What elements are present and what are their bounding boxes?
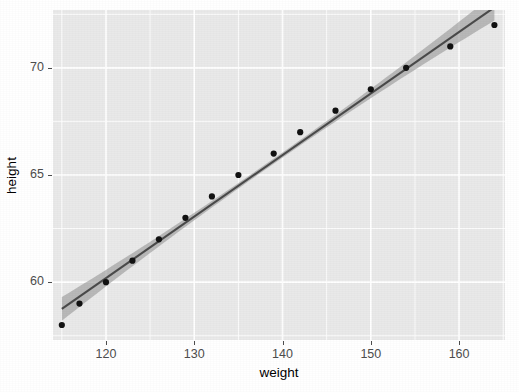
scatter-plot-figure: height 606570 120130140150160 weight: [0, 0, 519, 392]
data-point: [59, 322, 65, 328]
x-axis-tick-mark: [283, 341, 284, 345]
data-point: [368, 86, 374, 92]
x-axis-title: weight: [53, 365, 505, 380]
x-axis-tick-label: 160: [436, 348, 482, 361]
x-axis-tick-mark: [106, 341, 107, 345]
data-point: [209, 193, 215, 199]
y-axis-tick-mark: [48, 68, 52, 69]
data-point: [447, 43, 453, 49]
data-point: [403, 65, 409, 71]
plot-panel: [53, 10, 505, 340]
y-axis-tick-label: 70: [4, 61, 44, 74]
y-axis-tick-label: 65: [4, 168, 44, 181]
major-gridlines: [53, 10, 505, 340]
data-point: [76, 300, 82, 306]
x-axis-tick-label: 120: [83, 348, 129, 361]
data-point: [182, 215, 188, 221]
x-axis-tick-label: 130: [171, 348, 217, 361]
y-axis-tick-mark: [48, 175, 52, 176]
data-point: [235, 172, 241, 178]
y-axis-title: height: [0, 0, 22, 350]
x-axis-tick-label: 150: [348, 348, 394, 361]
data-point: [129, 258, 135, 264]
x-axis-tick-mark: [459, 341, 460, 345]
data-point: [156, 236, 162, 242]
data-point: [271, 150, 277, 156]
confidence-ribbon: [62, 10, 495, 321]
x-axis-tick-mark: [371, 341, 372, 345]
y-axis-tick-mark: [48, 282, 52, 283]
data-point: [491, 22, 497, 28]
y-axis-title-label: height: [4, 157, 19, 194]
data-point: [103, 279, 109, 285]
y-axis-tick-label: 60: [4, 275, 44, 288]
data-point: [297, 129, 303, 135]
x-axis-tick-label: 140: [260, 348, 306, 361]
confidence-band: [62, 10, 495, 321]
data-point: [332, 108, 338, 114]
plot-canvas: [53, 10, 505, 340]
x-axis-tick-mark: [194, 341, 195, 345]
